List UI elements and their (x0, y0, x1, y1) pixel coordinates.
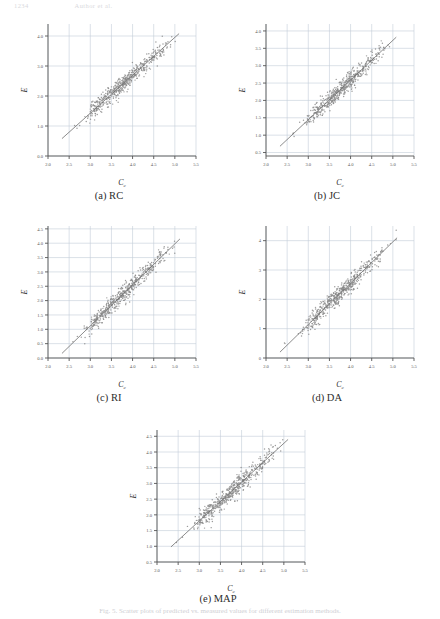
y-tick-label: 0.5 (146, 560, 152, 565)
x-tick-label: 5.0 (390, 162, 396, 167)
x-tick-label: 4.5 (369, 162, 375, 167)
y-tick-label: 0.0 (37, 356, 43, 361)
fit-line (62, 34, 179, 139)
y-tick-label: 0.5 (37, 341, 43, 346)
y-tick-label: 2.0 (255, 98, 261, 103)
x-tick-label: 2.0 (45, 364, 51, 369)
x-tick-label: 5.0 (172, 162, 178, 167)
x-axis-label: Cc (336, 178, 344, 188)
x-axis-label-subscript: c (124, 183, 127, 188)
x-tick-label: 5.0 (390, 364, 396, 369)
y-tick-label: 4.0 (146, 450, 152, 455)
x-tick-label: 4.0 (348, 162, 354, 167)
x-axis-label: Cc (118, 380, 126, 390)
panel-c-caption: (c) RI (14, 392, 204, 403)
y-tick-label: 1.0 (146, 544, 152, 549)
x-tick-label: 4.0 (130, 162, 136, 167)
y-tick-label: 2.5 (146, 497, 152, 502)
y-tick-label: 3.0 (255, 63, 261, 68)
panel-d-caption: (d) DA (232, 392, 422, 403)
x-tick-label: 5.5 (302, 568, 308, 573)
x-tick-label: 2.0 (263, 364, 269, 369)
x-tick-label: 5.0 (281, 568, 287, 573)
y-tick-label: 2.0 (146, 513, 152, 518)
x-tick-label: 3.0 (196, 568, 202, 573)
fit-line (280, 37, 396, 146)
x-tick-label: 4.5 (151, 162, 157, 167)
y-tick-label: 3.5 (146, 465, 152, 470)
x-tick-label: 2.5 (284, 364, 290, 369)
y-tick-label: 1.5 (146, 528, 152, 533)
panel-a-caption: (a) RC (14, 190, 204, 201)
y-tick-label: 1.5 (37, 313, 43, 318)
x-tick-label: 3.0 (305, 364, 311, 369)
y-axis-label: E (129, 493, 138, 499)
panel-e-caption: (e) MAP (123, 593, 313, 604)
y-tick-label: 4.0 (37, 241, 43, 246)
y-tick-label: 0.0 (37, 154, 43, 159)
x-axis-label-subscript: c (124, 385, 127, 390)
y-axis-label: E (20, 289, 29, 295)
y-tick-label: 1.0 (37, 327, 43, 332)
x-tick-label: 2.5 (175, 568, 181, 573)
x-tick-label: 2.0 (45, 162, 51, 167)
y-tick-label: 3.0 (37, 64, 43, 69)
scatter-plot-d: 2.02.53.03.54.04.55.05.501234CcE (232, 216, 422, 392)
x-tick-label: 3.5 (327, 364, 333, 369)
x-axis-label-subscript: c (342, 385, 345, 390)
x-tick-label: 4.5 (260, 568, 266, 573)
y-tick-label: 1 (259, 326, 262, 331)
y-tick-label: 1.0 (37, 124, 43, 129)
panel-b-caption: (b) JC (232, 190, 422, 201)
y-tick-label: 1.5 (255, 115, 261, 120)
panel-d: 2.02.53.03.54.04.55.05.501234CcE (232, 216, 422, 392)
y-tick-label: 3 (259, 268, 262, 273)
x-tick-label: 4.5 (369, 364, 375, 369)
scatter-plot-a: 2.02.53.03.54.04.55.05.50.01.02.03.04.0C… (14, 14, 204, 190)
y-tick-label: 4.0 (255, 29, 261, 34)
x-axis-label: Cc (336, 380, 344, 390)
y-tick-label: 2.0 (37, 298, 43, 303)
y-tick-label: 4 (259, 238, 262, 243)
x-axis-label-subscript: c (342, 183, 345, 188)
x-tick-label: 3.5 (109, 162, 115, 167)
y-tick-label: 4.5 (37, 227, 43, 232)
x-tick-label: 4.0 (130, 364, 136, 369)
panel-c: 2.02.53.03.54.04.55.05.50.00.51.01.52.02… (14, 216, 204, 392)
scatter-points (284, 229, 397, 344)
y-tick-label: 4.5 (146, 434, 152, 439)
x-tick-label: 5.5 (411, 162, 417, 167)
scatter-plot-e: 2.02.53.03.54.04.55.05.50.51.01.52.02.53… (123, 420, 313, 596)
x-tick-label: 2.0 (154, 568, 160, 573)
x-tick-label: 5.5 (193, 162, 199, 167)
x-tick-label: 3.5 (218, 568, 224, 573)
y-tick-label: 3.0 (37, 270, 43, 275)
x-tick-label: 3.0 (305, 162, 311, 167)
panel-a: 2.02.53.03.54.04.55.05.50.01.02.03.04.0C… (14, 14, 204, 190)
x-tick-label: 2.5 (66, 162, 72, 167)
x-tick-label: 5.0 (172, 364, 178, 369)
x-tick-label: 2.5 (284, 162, 290, 167)
scatter-plot-b: 2.02.53.03.54.04.55.05.50.51.01.52.02.53… (232, 14, 422, 190)
figure-caption: Fig. 5. Scatter plots of predicted vs. m… (0, 607, 440, 615)
y-axis-label: E (20, 87, 29, 93)
x-tick-label: 4.0 (348, 364, 354, 369)
x-tick-label: 3.5 (327, 162, 333, 167)
y-tick-label: 3.5 (255, 46, 261, 51)
y-tick-label: 1.0 (255, 133, 261, 138)
panel-b: 2.02.53.03.54.04.55.05.50.51.01.52.02.53… (232, 14, 422, 190)
y-tick-label: 2.0 (37, 94, 43, 99)
y-tick-label: 3.0 (146, 481, 152, 486)
fit-line (280, 238, 397, 352)
figure-scatter-grid: 2.02.53.03.54.04.55.05.50.01.02.03.04.0C… (0, 0, 440, 619)
x-tick-label: 5.5 (411, 364, 417, 369)
x-tick-label: 3.0 (87, 162, 93, 167)
x-tick-label: 3.0 (87, 364, 93, 369)
x-tick-label: 2.0 (263, 162, 269, 167)
y-tick-label: 4.0 (37, 34, 43, 39)
y-tick-label: 0.5 (255, 150, 261, 155)
y-axis-label: E (238, 289, 247, 295)
x-axis-label: Cc (118, 178, 126, 188)
scatter-plot-c: 2.02.53.03.54.04.55.05.50.00.51.01.52.02… (14, 216, 204, 392)
x-tick-label: 4.0 (239, 568, 245, 573)
